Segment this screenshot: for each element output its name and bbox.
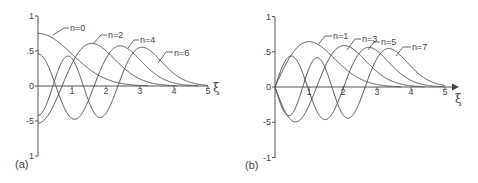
x-tick-label: 5 xyxy=(442,87,447,97)
y-tick-label: .5 xyxy=(263,47,271,57)
x-tick-label: 1 xyxy=(69,86,74,96)
y-tick-label: 0 xyxy=(29,81,34,91)
y-tick-label: .5 xyxy=(26,46,34,56)
curve-label: n=2 xyxy=(108,30,123,40)
x-axis-label: ξ xyxy=(455,92,462,106)
label-leader-line xyxy=(396,47,411,56)
y-tick-label: 1 xyxy=(266,12,271,22)
curve-n1 xyxy=(275,42,401,87)
curve-n5 xyxy=(275,47,444,119)
panel-a-even-wavefunctions: 1.50-5112345ξ(a)n=0n=2n=4n=6 xyxy=(15,11,220,170)
panel-label: (b) xyxy=(245,159,258,171)
panel-label: (a) xyxy=(15,158,28,170)
x-axis-arrow-icon xyxy=(452,84,459,91)
x-tick-label: 3 xyxy=(374,87,379,97)
label-leader-line xyxy=(318,36,332,45)
y-tick-label: -1 xyxy=(263,153,271,163)
y-tick-label: 0 xyxy=(266,82,271,92)
curve-label: n=0 xyxy=(70,23,85,33)
x-tick-label: 5 xyxy=(205,86,210,96)
y-tick-label: -5 xyxy=(26,116,34,126)
curve-label: n=1 xyxy=(333,31,348,41)
y-tick-label: 1 xyxy=(29,151,34,161)
curve-label: n=4 xyxy=(140,35,155,45)
label-leader-line xyxy=(158,52,173,63)
curve-label: n=6 xyxy=(174,48,189,58)
curve-label: n=3 xyxy=(362,34,377,44)
y-tick-label: 1 xyxy=(29,11,34,21)
curve-n0 xyxy=(38,33,148,85)
curve-label: n=7 xyxy=(412,42,427,52)
label-leader-line xyxy=(347,39,361,50)
x-tick-label: 3 xyxy=(137,86,142,96)
curve-label: n=5 xyxy=(381,37,396,47)
label-leader-line xyxy=(53,28,69,35)
y-tick-label: -5 xyxy=(263,117,271,127)
x-axis-label: ξ xyxy=(213,81,220,95)
label-leader-line xyxy=(128,40,139,48)
figure: 1.50-5112345ξ(a)n=0n=2n=4n=6 1.50-5-1123… xyxy=(0,0,478,183)
x-tick-label: 4 xyxy=(171,86,176,96)
panel-b-odd-wavefunctions: 1.50-5-112345ξ(b)n=1n=3n=5n=7 xyxy=(245,12,462,172)
x-tick-label: 4 xyxy=(408,87,413,97)
label-leader-line xyxy=(93,35,107,44)
x-tick-label: 2 xyxy=(103,86,108,96)
